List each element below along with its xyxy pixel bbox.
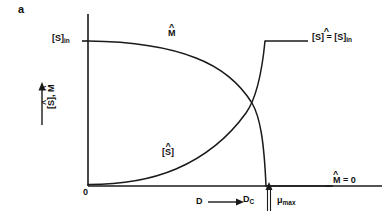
m-hat-glyph-zero: ^M = 0: [333, 176, 356, 185]
annotation-m-equals-zero: ^M = 0: [333, 176, 356, 185]
circumflex-icon: ^: [333, 170, 338, 179]
y-tick-label-s-in-text: [S]: [52, 33, 64, 43]
y-tick-label-s-in-subscript: in: [64, 37, 70, 44]
m-hat-glyph: ^M: [168, 29, 176, 38]
s-hat-glyph-right: ^[S] = [S]: [312, 33, 346, 42]
annotation-s-equals-s-in-subscript: in: [346, 36, 352, 43]
circumflex-icon: ^: [166, 142, 171, 151]
x-axis-label-mu-max-subscript: max: [283, 199, 296, 206]
curve-s-hat: [88, 41, 265, 185]
origin-label: 0: [83, 188, 88, 197]
circumflex-icon: ^: [41, 86, 50, 91]
circumflex-icon: ^: [169, 23, 174, 32]
y-tick-label-s-in: [S]in: [52, 34, 70, 44]
m-hat-glyph-axis: ^M: [47, 84, 56, 92]
x-axis-label-mu-max: μmax: [277, 196, 296, 206]
y-axis-title: ^[S], ^M: [47, 62, 56, 132]
x-axis-label-dc-subscript: C: [250, 198, 255, 205]
s-hat-glyph: ^[S]: [162, 148, 174, 157]
annotation-s-equals-s-in-text: [S] = [S]: [312, 32, 346, 42]
x-axis-label-d: D: [196, 197, 203, 206]
circumflex-icon: ^: [324, 27, 329, 36]
circumflex-icon: ^: [41, 100, 50, 105]
x-axis-label-dc: DC: [243, 195, 254, 205]
figure-panel: a [S]in ^M ^[S] = [S]in ^: [0, 0, 390, 224]
curve-label-s-hat: ^[S]: [162, 148, 174, 157]
curve-label-m-hat: ^M: [168, 29, 176, 38]
curve-m-hat: [88, 41, 266, 186]
annotation-s-equals-s-in: ^[S] = [S]in: [312, 33, 352, 43]
s-hat-glyph-axis: ^[S],: [47, 94, 56, 109]
